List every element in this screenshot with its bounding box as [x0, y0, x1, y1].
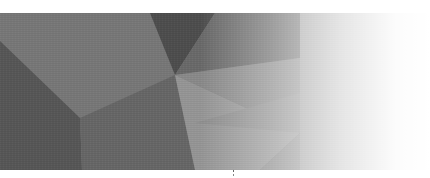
- small-marker: [233, 170, 234, 176]
- right-facet: [300, 13, 430, 170]
- geometric-banner-image: [0, 13, 430, 170]
- image-canvas: [0, 0, 430, 178]
- low-poly-shapes: [0, 13, 430, 170]
